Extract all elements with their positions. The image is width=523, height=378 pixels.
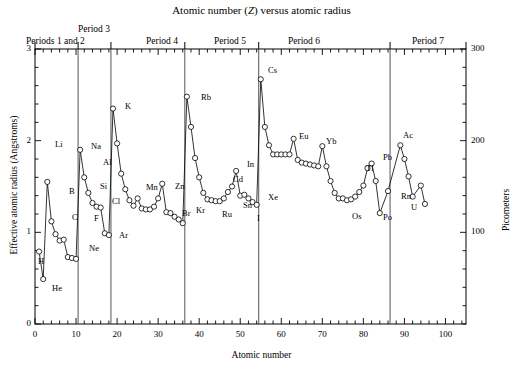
element-label-Po: Po — [383, 212, 392, 222]
y2-tick-100: 100 — [471, 226, 501, 236]
x-tick-90: 90 — [389, 329, 419, 339]
y-tick-0: 0 — [9, 318, 31, 328]
x-tick-30: 30 — [143, 329, 173, 339]
x-tick-0: 0 — [20, 329, 50, 339]
element-label-Ru: Ru — [222, 209, 232, 219]
element-label-Cl: Cl — [112, 196, 120, 206]
element-label-Al: Al — [103, 157, 112, 167]
y-tick-2: 2 — [9, 135, 31, 145]
element-label-In: In — [247, 159, 254, 169]
element-label-U: U — [411, 202, 417, 212]
element-label-Pb: Pb — [383, 152, 392, 162]
y2-tick-300: 300 — [471, 43, 501, 53]
x-tick-20: 20 — [102, 329, 132, 339]
x-tick-100: 100 — [430, 329, 460, 339]
element-label-He: He — [52, 283, 62, 293]
element-label-Si: Si — [100, 181, 107, 191]
element-label-H: H — [38, 256, 44, 266]
y2-tick-200: 200 — [471, 135, 501, 145]
element-label-B: B — [69, 186, 75, 196]
element-label-Tl: Tl — [366, 163, 374, 173]
element-label-C: C — [72, 212, 78, 222]
element-label-F: F — [94, 213, 99, 223]
element-label-Sn: Sn — [243, 200, 252, 210]
element-label-Yb: Yb — [326, 136, 336, 146]
element-label-Cd: Cd — [233, 174, 243, 184]
element-label-I: I — [257, 213, 260, 223]
element-label-Ne: Ne — [89, 243, 99, 253]
y-tick-3: 3 — [9, 43, 31, 53]
element-label-Cs: Cs — [268, 65, 277, 75]
y-tick-1: 1 — [9, 226, 31, 236]
x-tick-60: 60 — [266, 329, 296, 339]
x-tick-80: 80 — [348, 329, 378, 339]
element-label-Ac: Ac — [403, 130, 413, 140]
element-label-Rn: Rn — [401, 191, 411, 201]
element-label-Li: Li — [55, 139, 63, 149]
element-label-Zn: Zn — [175, 181, 184, 191]
element-label-K: K — [125, 101, 131, 111]
x-tick-40: 40 — [184, 329, 214, 339]
x-tick-10: 10 — [61, 329, 91, 339]
element-label-Na: Na — [91, 141, 101, 151]
x-tick-70: 70 — [307, 329, 337, 339]
element-label-Br: Br — [182, 208, 191, 218]
plot-area — [0, 0, 523, 378]
element-label-Mn: Mn — [146, 182, 158, 192]
element-label-Kr: Kr — [196, 205, 205, 215]
element-label-Eu: Eu — [299, 131, 308, 141]
chart-figure: Atomic number (Z) versus atomic radius P… — [0, 0, 523, 378]
x-tick-50: 50 — [225, 329, 255, 339]
element-label-Rb: Rb — [201, 92, 211, 102]
element-label-Os: Os — [352, 211, 361, 221]
element-label-Ar: Ar — [119, 230, 128, 240]
element-label-Xe: Xe — [268, 192, 278, 202]
